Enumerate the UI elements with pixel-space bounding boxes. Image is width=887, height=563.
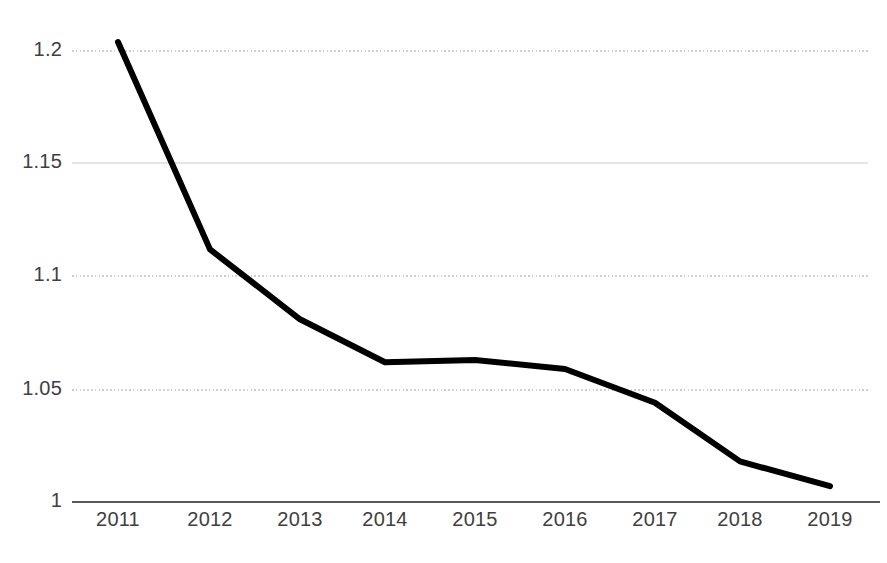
chart-plot-area: [0, 0, 887, 563]
gridline-group: [72, 51, 868, 390]
ytick-label-1.2: 1.2: [0, 38, 62, 61]
series-line: [118, 42, 830, 486]
xtick-label-2019: 2019: [785, 508, 875, 531]
xtick-label-2013: 2013: [255, 508, 345, 531]
xtick-label-2018: 2018: [695, 508, 785, 531]
xtick-label-2011: 2011: [73, 508, 163, 531]
line-chart: 1.2 1.15 1.1 1.05 1 2011 2012 2013 2014 …: [0, 0, 887, 563]
ytick-label-1.05: 1.05: [0, 377, 62, 400]
ytick-label-1.15: 1.15: [0, 150, 62, 173]
xtick-label-2015: 2015: [430, 508, 520, 531]
ytick-label-1: 1: [0, 489, 62, 512]
xtick-label-2016: 2016: [520, 508, 610, 531]
xtick-label-2014: 2014: [340, 508, 430, 531]
xtick-label-2012: 2012: [165, 508, 255, 531]
ytick-label-1.1: 1.1: [0, 263, 62, 286]
xtick-label-2017: 2017: [610, 508, 700, 531]
